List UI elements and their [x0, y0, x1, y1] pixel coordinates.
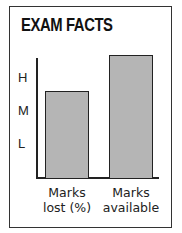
- bar-marks-available: [109, 55, 153, 178]
- x-label-marks-lost: Marks lost (%): [37, 185, 97, 215]
- x-label-marks-available: Marks available: [101, 185, 161, 215]
- y-tick-low: L: [18, 136, 25, 151]
- y-tick-medium: M: [18, 103, 29, 118]
- bar-marks-lost: [45, 91, 89, 178]
- y-axis: [36, 58, 38, 178]
- chart-title: EXAM FACTS: [21, 14, 113, 36]
- y-tick-high: H: [18, 70, 27, 85]
